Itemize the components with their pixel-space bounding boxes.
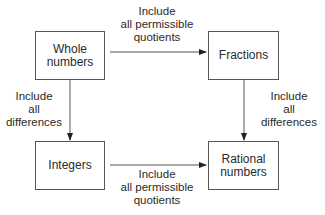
node-label-line: numbers: [220, 166, 267, 179]
edge-label-top: Include all permissible quotients: [107, 5, 207, 44]
edge-label-line: all permissible: [107, 181, 207, 194]
node-label-line: Rational: [220, 153, 267, 166]
edge-label-line: all: [256, 103, 322, 116]
node-label-line: Whole: [47, 43, 94, 56]
node-whole-numbers: Whole numbers: [35, 31, 105, 80]
number-systems-diagram: Whole numbers Fractions Integers Rationa…: [0, 0, 325, 215]
edge-label-line: Include: [256, 90, 322, 103]
node-label-line: Fractions: [219, 49, 268, 62]
node-fractions: Fractions: [208, 31, 279, 80]
edge-label-line: quotients: [107, 31, 207, 44]
edge-label-bottom: Include all permissible quotients: [107, 168, 207, 207]
edge-label-line: all: [2, 103, 66, 116]
edge-label-line: quotients: [107, 194, 207, 207]
node-rational-numbers: Rational numbers: [208, 141, 279, 190]
node-label-line: Integers: [48, 159, 91, 172]
edge-label-line: Include: [107, 5, 207, 18]
edge-label-line: all permissible: [107, 18, 207, 31]
edge-label-left: Include all differences: [2, 90, 66, 129]
node-integers: Integers: [35, 141, 105, 190]
node-label-line: numbers: [47, 56, 94, 69]
edge-label-line: Include: [107, 168, 207, 181]
edge-label-line: Include: [2, 90, 66, 103]
edge-label-right: Include all differences: [256, 90, 322, 129]
edge-label-line: differences: [256, 116, 322, 129]
edge-label-line: differences: [2, 116, 66, 129]
